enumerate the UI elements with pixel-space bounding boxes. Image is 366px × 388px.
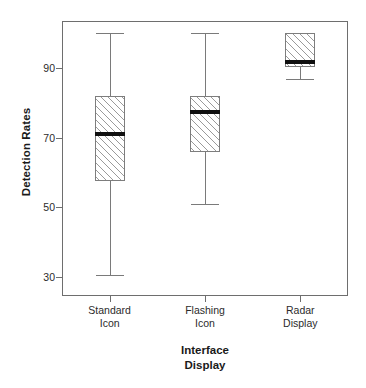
y-tick-mark [56, 207, 62, 208]
whisker-cap-upper [96, 33, 124, 34]
median-line [285, 60, 315, 64]
x-tick-label-line1: Standard [88, 304, 131, 316]
median-line [190, 110, 220, 114]
x-tick-mark [300, 296, 301, 302]
y-tick-mark [56, 138, 62, 139]
x-tick-label: FlashingIcon [150, 304, 260, 330]
x-axis-title: Interface Display [62, 343, 348, 373]
whisker-cap-upper [191, 33, 219, 34]
y-tick-label: 50 [29, 202, 55, 213]
x-tick-label-line2: Icon [55, 317, 165, 330]
y-tick-mark [56, 277, 62, 278]
y-tick-label: 70 [29, 133, 55, 144]
whisker-cap-lower [191, 204, 219, 205]
whisker-cap-lower [96, 275, 124, 276]
y-axis-ticks: 30507090 [28, 0, 55, 388]
box-iqr [95, 96, 125, 181]
whisker-lower [205, 152, 206, 204]
x-tick-label-line1: Flashing [185, 304, 225, 316]
x-axis-title-line1: Interface [181, 344, 229, 356]
y-tick-label: 90 [29, 63, 55, 74]
y-tick-mark [56, 68, 62, 69]
x-tick-label-line1: Radar [286, 304, 315, 316]
median-line [95, 132, 125, 136]
x-tick-label: StandardIcon [55, 304, 165, 330]
box-iqr [190, 96, 220, 152]
box-plot-figure: Detection Rates 30507090 StandardIconFla… [0, 0, 366, 388]
x-axis-title-line2: Display [62, 358, 348, 373]
x-tick-mark [205, 296, 206, 302]
whisker-lower [300, 67, 301, 79]
x-tick-label-line2: Display [245, 317, 355, 330]
x-tick-mark [110, 296, 111, 302]
whisker-lower [110, 181, 111, 275]
whisker-upper [205, 33, 206, 96]
x-tick-label-line2: Icon [150, 317, 260, 330]
whisker-upper [110, 33, 111, 96]
whisker-cap-lower [286, 79, 314, 80]
y-tick-label: 30 [29, 272, 55, 283]
x-tick-label: RadarDisplay [245, 304, 355, 330]
